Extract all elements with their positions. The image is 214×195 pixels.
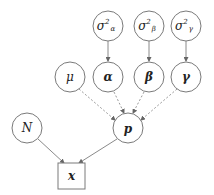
- svg-text:β: β: [144, 70, 153, 84]
- edge-mu-to-p: [79, 89, 115, 120]
- svg-text:x: x: [67, 169, 76, 183]
- node-p: p: [113, 113, 143, 143]
- node-sigma-alpha: σ2α: [93, 11, 123, 41]
- svg-text:μ: μ: [66, 70, 74, 84]
- svg-text:N: N: [21, 121, 33, 135]
- svg-text:α: α: [103, 70, 112, 84]
- node-alpha: α: [93, 62, 123, 92]
- edge-p-to-x: [79, 139, 117, 163]
- edge-N-to-x: [38, 139, 64, 163]
- edge-gamma-to-p: [141, 89, 177, 120]
- node-gamma: γ: [171, 62, 201, 92]
- node-N: N: [12, 113, 42, 143]
- node-mu: μ: [55, 62, 85, 92]
- graphical-model-diagram: σ2α σ2β σ2γ μ α β γ N p x: [0, 0, 214, 195]
- edge-alpha-to-p: [114, 92, 124, 113]
- svg-text:p: p: [124, 122, 133, 136]
- node-sigma-beta: σ2β: [134, 11, 164, 41]
- edges: [38, 41, 186, 163]
- edge-beta-to-p: [133, 92, 144, 113]
- node-x-observed: x: [58, 163, 85, 189]
- node-sigma-gamma: σ2γ: [171, 11, 201, 41]
- node-beta: β: [134, 62, 164, 92]
- svg-text:γ: γ: [182, 70, 191, 84]
